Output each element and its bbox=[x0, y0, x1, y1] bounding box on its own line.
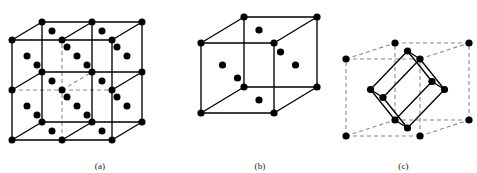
lattice-atom bbox=[49, 78, 56, 85]
lattice-atom bbox=[255, 26, 262, 33]
lattice-atom bbox=[24, 103, 31, 110]
lattice-atom bbox=[416, 132, 423, 139]
figure-root: (a) (b) (c) bbox=[0, 0, 477, 173]
cube-edge-dashed bbox=[346, 43, 395, 59]
lattice-atom bbox=[34, 62, 41, 69]
lattice-atom bbox=[139, 19, 146, 26]
lattice-atom bbox=[240, 13, 247, 20]
lattice-atom bbox=[391, 116, 398, 123]
lattice-atom bbox=[109, 87, 116, 94]
lattice-atom bbox=[342, 55, 349, 62]
lattice-atom bbox=[270, 39, 277, 46]
lattice-atom bbox=[114, 44, 121, 51]
lattice-atom bbox=[59, 37, 66, 44]
lattice-atom bbox=[404, 47, 411, 54]
lattice-atom bbox=[292, 61, 299, 68]
lattice-atom bbox=[89, 69, 96, 76]
lattice-edge bbox=[112, 72, 142, 90]
panel-c-caption: (c) bbox=[330, 161, 477, 171]
lattice-atom bbox=[9, 87, 16, 94]
lattice-atom bbox=[270, 109, 277, 116]
primitive-cell-edge bbox=[371, 51, 408, 90]
lattice-atom bbox=[277, 48, 284, 55]
lattice-atom bbox=[74, 103, 81, 110]
lattice-atom bbox=[109, 37, 116, 44]
lattice-atom bbox=[59, 137, 66, 144]
lattice-edge bbox=[12, 72, 42, 90]
fcc-primitive-cell-drawing bbox=[330, 0, 477, 155]
lattice-atom bbox=[84, 112, 91, 119]
lattice-atom bbox=[465, 116, 472, 123]
lattice-atom bbox=[84, 62, 91, 69]
lattice-atom bbox=[49, 128, 56, 135]
lattice-atom bbox=[9, 37, 16, 44]
lattice-atom bbox=[74, 53, 81, 60]
primitive-cell-edge bbox=[395, 82, 432, 121]
lattice-atom bbox=[39, 19, 46, 26]
primitive-cell-edge bbox=[383, 59, 420, 98]
lattice-atom bbox=[64, 94, 71, 101]
lattice-atom bbox=[428, 78, 435, 85]
lattice-atom bbox=[219, 61, 226, 68]
lattice-atom bbox=[342, 132, 349, 139]
panel-a: (a) bbox=[0, 0, 200, 173]
lattice-edge bbox=[201, 87, 244, 113]
lattice-edge bbox=[201, 17, 244, 43]
lattice-edge bbox=[62, 122, 92, 140]
lattice-atom bbox=[313, 83, 320, 90]
lattice-atom bbox=[99, 78, 106, 85]
panel-b-caption: (b) bbox=[190, 161, 330, 171]
lattice-atom bbox=[139, 69, 146, 76]
primitive-cell-edge bbox=[408, 90, 445, 129]
lattice-atom bbox=[234, 74, 241, 81]
lattice-edge bbox=[12, 122, 42, 140]
lattice-atom bbox=[99, 128, 106, 135]
lattice-atom bbox=[313, 13, 320, 20]
lattice-atom bbox=[255, 96, 262, 103]
lattice-atom bbox=[240, 83, 247, 90]
fcc-array-drawing bbox=[0, 0, 200, 155]
lattice-atom bbox=[367, 86, 374, 93]
panel-b: (b) bbox=[190, 0, 330, 173]
lattice-atom bbox=[64, 44, 71, 51]
lattice-atom bbox=[139, 119, 146, 126]
lattice-atom bbox=[441, 86, 448, 93]
lattice-atom bbox=[124, 53, 131, 60]
lattice-atom bbox=[197, 39, 204, 46]
lattice-atom bbox=[59, 87, 66, 94]
lattice-atom bbox=[416, 55, 423, 62]
lattice-atom bbox=[124, 103, 131, 110]
lattice-atom bbox=[34, 112, 41, 119]
cube-edge-dashed bbox=[420, 120, 469, 136]
lattice-edge bbox=[62, 22, 92, 40]
lattice-atom bbox=[109, 137, 116, 144]
lattice-atom bbox=[89, 19, 96, 26]
lattice-atom bbox=[24, 53, 31, 60]
lattice-atom bbox=[39, 119, 46, 126]
lattice-atom bbox=[39, 69, 46, 76]
cube-edge-dashed bbox=[420, 43, 469, 59]
lattice-edge bbox=[112, 22, 142, 40]
lattice-edge bbox=[112, 122, 142, 140]
lattice-edge-hidden bbox=[62, 72, 92, 90]
lattice-atom bbox=[99, 28, 106, 35]
lattice-atom bbox=[89, 119, 96, 126]
lattice-atom bbox=[49, 28, 56, 35]
lattice-edge bbox=[274, 87, 317, 113]
lattice-atom bbox=[404, 124, 411, 131]
lattice-edge bbox=[12, 22, 42, 40]
lattice-atom bbox=[379, 94, 386, 101]
fcc-unit-cell-drawing bbox=[190, 0, 330, 155]
lattice-atom bbox=[197, 109, 204, 116]
lattice-edge bbox=[274, 17, 317, 43]
lattice-atom bbox=[465, 39, 472, 46]
lattice-atom bbox=[114, 94, 121, 101]
cube-edge-dashed bbox=[346, 120, 395, 136]
lattice-atom bbox=[391, 39, 398, 46]
panel-c: (c) bbox=[330, 0, 477, 173]
panel-a-caption: (a) bbox=[0, 161, 200, 171]
lattice-atom bbox=[9, 137, 16, 144]
